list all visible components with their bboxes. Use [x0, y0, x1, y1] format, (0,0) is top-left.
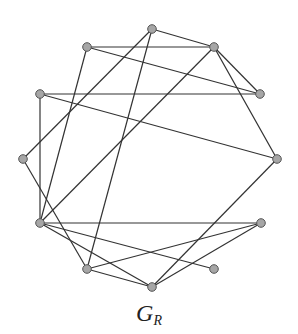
edge-H-K	[40, 223, 214, 269]
edge-A-C	[152, 29, 214, 47]
node-E	[256, 90, 265, 99]
edge-J-L	[87, 269, 152, 287]
edge-B-E	[87, 47, 260, 94]
node-F	[19, 155, 28, 164]
edge-L-I	[152, 223, 261, 287]
graph-label: GR	[0, 300, 298, 329]
node-H	[36, 219, 45, 228]
edge-H-L	[40, 223, 152, 287]
graph-label-subscript: R	[153, 313, 162, 328]
node-C	[210, 43, 219, 52]
node-G	[273, 155, 282, 164]
node-L	[148, 283, 157, 292]
graph-edges	[23, 29, 277, 287]
graph-diagram	[0, 0, 298, 334]
edge-A-J	[87, 29, 152, 269]
node-K	[210, 265, 219, 274]
node-J	[83, 265, 92, 274]
edge-J-I	[87, 223, 261, 269]
edge-F-J	[23, 159, 87, 269]
node-B	[83, 43, 92, 52]
node-D	[36, 90, 45, 99]
edge-C-G	[214, 47, 277, 159]
node-A	[148, 25, 157, 34]
graph-label-main: G	[136, 300, 153, 326]
node-I	[257, 219, 266, 228]
